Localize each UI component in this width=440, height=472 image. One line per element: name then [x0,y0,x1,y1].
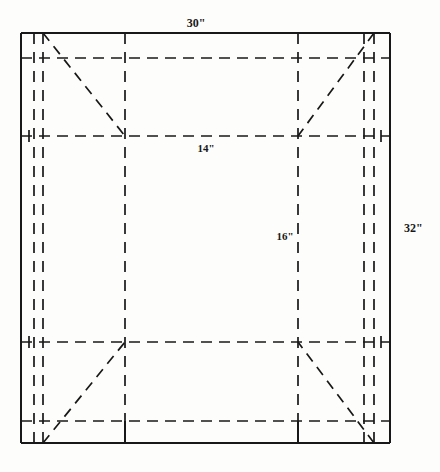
edge-tick-marks [29,130,381,348]
outline-solid-lines [21,33,390,443]
dimension-label-inner-height: 16" [276,230,293,242]
dimension-labels: 30"32"14"16" [187,16,423,242]
dimension-label-inner-width: 14" [197,142,214,154]
fold-lines-vertical [34,33,374,443]
corner-diagonal-bottom-left [43,342,125,443]
corner-diagonal-top-left [43,33,125,136]
dimension-label-top-width: 30" [187,16,206,30]
corner-fold-diagonals [43,33,374,443]
corner-diagonal-bottom-right [298,342,374,443]
fold-lines-horizontal [21,58,390,421]
technical-drawing-figure: 30"32"14"16" [0,0,440,472]
corner-diagonal-top-right [298,33,374,136]
pattern-drawing-canvas: 30"32"14"16" [0,0,440,472]
dimension-label-right-height: 32" [404,221,423,235]
